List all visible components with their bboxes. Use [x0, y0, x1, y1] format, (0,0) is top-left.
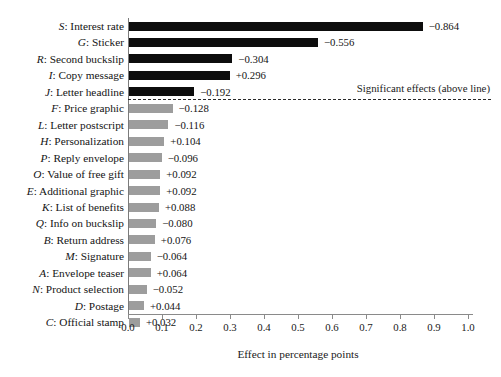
bar-nonsignificant [129, 170, 160, 179]
bar-value-label: −0.052 [153, 281, 183, 297]
bar-row-label: J: Letter headline [0, 84, 124, 100]
bar-row: B: Return address+0.076 [0, 232, 501, 248]
bar-value-label: −0.864 [429, 18, 459, 34]
bar-nonsignificant [129, 252, 151, 261]
bar-significant [129, 38, 318, 47]
x-axis-tick-label: 0.6 [325, 321, 339, 333]
bar-value-label: −0.556 [324, 34, 354, 50]
bar-significant [129, 71, 230, 80]
bar-nonsignificant [129, 219, 156, 228]
bar-row-label: F: Price graphic [0, 100, 124, 116]
bar-row-label: M: Signature [0, 248, 124, 264]
bar-row-label: E: Additional graphic [0, 183, 124, 199]
bar-row-label: A: Envelope teaser [0, 265, 124, 281]
bar-row: P: Reply envelope−0.096 [0, 150, 501, 166]
bar-row-label: C: Official stamp [0, 314, 124, 330]
x-axis-tick [298, 314, 299, 319]
x-axis-tick-label: 0.7 [359, 321, 373, 333]
bar-significant [129, 54, 232, 63]
bar-value-label: −0.064 [157, 248, 187, 264]
significance-divider-note: Significant effects (above line) [357, 82, 490, 94]
significance-divider-line [128, 99, 491, 100]
bar-row-label: R: Second buckslip [0, 51, 124, 67]
bar-row-label: G: Sticker [0, 34, 124, 50]
bar-nonsignificant [129, 153, 162, 162]
x-axis-tick-label: 0.0 [121, 321, 135, 333]
bar-row: S: Interest rate−0.864 [0, 18, 501, 34]
bar-nonsignificant [129, 235, 155, 244]
bar-nonsignificant [129, 268, 151, 277]
bar-row-label: N: Product selection [0, 281, 124, 297]
x-axis-tick [162, 314, 163, 319]
x-axis-title: Effect in percentage points [128, 348, 468, 360]
bar-row: R: Second buckslip−0.304 [0, 51, 501, 67]
bar-value-label: +0.092 [166, 183, 196, 199]
bar-value-label: −0.192 [200, 84, 230, 100]
bar-value-label: +0.064 [157, 265, 187, 281]
x-axis-tick [400, 314, 401, 319]
x-axis-tick-label: 1.0 [461, 321, 475, 333]
bar-row: O: Value of free gift+0.092 [0, 166, 501, 182]
bar-row: C: Official stamp+0.032 [0, 314, 501, 330]
bar-value-label: −0.304 [238, 51, 268, 67]
bar-row: K: List of benefits+0.088 [0, 199, 501, 215]
bar-row: L: Letter postscript−0.116 [0, 117, 501, 133]
x-axis-tick [434, 314, 435, 319]
bar-row: M: Signature−0.064 [0, 248, 501, 264]
bar-value-label: +0.104 [170, 133, 200, 149]
x-axis-tick-label: 0.4 [257, 321, 271, 333]
x-axis-tick [196, 314, 197, 319]
bar-nonsignificant [129, 104, 173, 113]
bar-value-label: +0.092 [166, 166, 196, 182]
bar-row-label: B: Return address [0, 232, 124, 248]
bar-row-label: O: Value of free gift [0, 166, 124, 182]
bar-value-label: −0.096 [168, 150, 198, 166]
x-axis-tick [468, 314, 469, 319]
bar-nonsignificant [129, 137, 164, 146]
bar-nonsignificant [129, 120, 168, 129]
bar-significant [129, 22, 423, 31]
bar-row-label: Q: Info on buckslip [0, 215, 124, 231]
bar-row-label: H: Personalization [0, 133, 124, 149]
bar-row-label: K: List of benefits [0, 199, 124, 215]
bar-value-label: +0.296 [236, 67, 266, 83]
x-axis-tick [366, 314, 367, 319]
bar-nonsignificant [129, 186, 160, 195]
bar-value-label: +0.076 [161, 232, 191, 248]
x-axis-tick [230, 314, 231, 319]
bar-row: Q: Info on buckslip−0.080 [0, 215, 501, 231]
bar-row: E: Additional graphic+0.092 [0, 183, 501, 199]
bar-value-label: −0.116 [174, 117, 204, 133]
bar-nonsignificant [129, 301, 144, 310]
bar-nonsignificant [129, 285, 147, 294]
bar-row: F: Price graphic−0.128 [0, 100, 501, 116]
x-axis-tick [264, 314, 265, 319]
bar-value-label: +0.044 [150, 298, 180, 314]
bar-row-label: D: Postage [0, 298, 124, 314]
bar-significant [129, 87, 194, 96]
bar-row: N: Product selection−0.052 [0, 281, 501, 297]
x-axis-tick-label: 0.2 [189, 321, 203, 333]
effects-bar-chart: S: Interest rate−0.864G: Sticker−0.556R:… [0, 0, 501, 377]
bar-row: D: Postage+0.044 [0, 298, 501, 314]
bar-value-label: −0.128 [179, 100, 209, 116]
x-axis-tick [332, 314, 333, 319]
x-axis-tick-label: 0.9 [427, 321, 441, 333]
bar-row-label: L: Letter postscript [0, 117, 124, 133]
bar-row: G: Sticker−0.556 [0, 34, 501, 50]
bar-nonsignificant [129, 203, 159, 212]
x-axis-tick-label: 0.5 [291, 321, 305, 333]
bar-row-label: I: Copy message [0, 67, 124, 83]
x-axis-tick-label: 0.8 [393, 321, 407, 333]
bar-value-label: −0.080 [162, 215, 192, 231]
bar-row: A: Envelope teaser+0.064 [0, 265, 501, 281]
bar-row-label: S: Interest rate [0, 18, 124, 34]
bar-row: H: Personalization+0.104 [0, 133, 501, 149]
x-axis-tick-label: 0.3 [223, 321, 237, 333]
x-axis-tick [128, 314, 129, 319]
bar-row-label: P: Reply envelope [0, 150, 124, 166]
bar-value-label: +0.088 [165, 199, 195, 215]
x-axis-tick-label: 0.1 [155, 321, 169, 333]
